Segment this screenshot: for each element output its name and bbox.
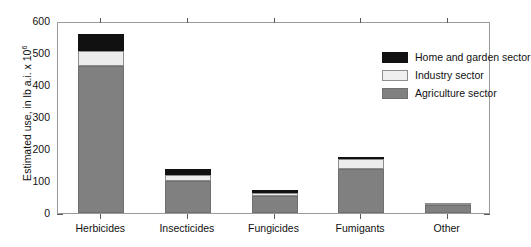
x-major-tick <box>447 214 448 219</box>
bar-fumigants <box>338 21 384 213</box>
bar-herbicides <box>78 21 124 213</box>
bar-segment-ind <box>338 159 384 169</box>
y-tick-label: 500 <box>14 47 50 59</box>
x-major-tick-top <box>100 18 101 23</box>
chart-legend: Home and garden sector Industry sector A… <box>382 49 531 103</box>
bar-segment-agri <box>165 181 211 213</box>
y-major-tick-right <box>484 214 490 215</box>
legend-item-home-and-garden: Home and garden sector <box>382 49 531 65</box>
legend-label-home-and-garden: Home and garden sector <box>415 51 531 63</box>
bar-segment-agri <box>252 196 298 213</box>
legend-item-agriculture: Agriculture sector <box>382 85 531 101</box>
bar-segment-agri <box>338 169 384 213</box>
bar-segment-ind <box>165 175 211 181</box>
y-tick-label: 100 <box>14 175 50 187</box>
plot-area: Home and garden sector Industry sector A… <box>57 22 490 214</box>
bar-fungicides <box>252 21 298 213</box>
x-tick-label: Other <box>397 222 497 234</box>
x-major-tick <box>187 214 188 219</box>
bar-segment-home <box>338 157 384 159</box>
legend-label-agriculture: Agriculture sector <box>415 87 497 99</box>
y-tick-label: 300 <box>14 111 50 123</box>
y-tick-label: 200 <box>14 143 50 155</box>
x-major-tick <box>274 214 275 219</box>
legend-label-industry: Industry sector <box>415 69 484 81</box>
x-major-tick-top <box>274 18 275 23</box>
bar-segment-ind <box>78 51 124 66</box>
y-tick-label: 600 <box>14 15 50 27</box>
x-major-tick-top <box>187 18 188 23</box>
bar-segment-ind <box>252 193 298 196</box>
bar-segment-agri <box>78 66 124 213</box>
bar-segment-home <box>165 169 211 175</box>
y-tick-label: 0 <box>14 207 50 219</box>
x-major-tick-top <box>360 18 361 23</box>
bar-segment-home <box>252 190 298 193</box>
legend-item-industry: Industry sector <box>382 67 531 83</box>
bar-segment-home <box>78 34 124 51</box>
bar-segment-ind <box>425 203 471 205</box>
gray-swatch-icon <box>382 88 408 99</box>
black-swatch-icon <box>382 52 408 63</box>
y-tick-label: 400 <box>14 79 50 91</box>
x-major-tick <box>360 214 361 219</box>
x-tick-label: Fungicides <box>224 222 324 234</box>
bar-segment-agri <box>425 205 471 213</box>
x-major-tick-top <box>447 18 448 23</box>
x-tick-label: Herbicides <box>50 222 150 234</box>
x-tick-label: Insecticides <box>137 222 237 234</box>
y-major-tick <box>57 214 63 215</box>
x-major-tick <box>100 214 101 219</box>
light-gray-swatch-icon <box>382 70 408 81</box>
bar-insecticides <box>165 21 211 213</box>
x-tick-label: Fumigants <box>310 222 410 234</box>
